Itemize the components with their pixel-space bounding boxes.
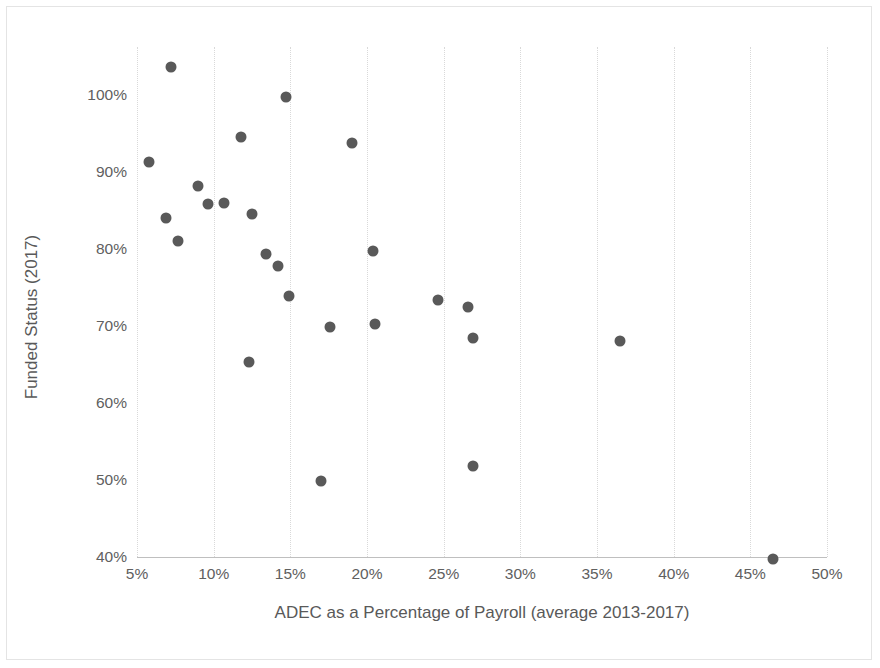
data-point	[368, 245, 379, 256]
x-tick-label: 40%	[644, 565, 704, 583]
data-point	[161, 213, 172, 224]
scatter-chart-frame: 5%10%15%20%25%30%35%40%45%50% 40%50%60%7…	[6, 6, 872, 660]
data-point	[193, 180, 204, 191]
x-tick-label: 20%	[337, 565, 397, 583]
gridline-vertical	[367, 47, 369, 557]
data-point	[369, 319, 380, 330]
data-point	[260, 249, 271, 260]
gridline-vertical	[290, 47, 292, 557]
gridline-vertical	[137, 47, 139, 557]
x-tick-label: 25%	[414, 565, 474, 583]
data-point	[768, 553, 779, 564]
data-point	[247, 208, 258, 219]
y-tick-label: 50%	[67, 471, 127, 489]
y-tick-label: 90%	[67, 163, 127, 181]
x-tick-label: 5%	[107, 565, 167, 583]
x-tick-label: 50%	[797, 565, 857, 583]
y-tick-label: 60%	[67, 394, 127, 412]
data-point	[467, 332, 478, 343]
data-point	[165, 62, 176, 73]
gridline-vertical	[750, 47, 752, 557]
x-axis-line	[137, 557, 827, 558]
data-point	[202, 198, 213, 209]
x-tick-label: 30%	[490, 565, 550, 583]
data-point	[273, 260, 284, 271]
y-axis-title: Funded Status (2017)	[22, 187, 42, 447]
x-tick-label: 35%	[567, 565, 627, 583]
data-point	[463, 301, 474, 312]
plot-area	[137, 47, 827, 557]
data-point	[280, 91, 291, 102]
gridline-vertical	[444, 47, 446, 557]
x-axis-title: ADEC as a Percentage of Payroll (average…	[137, 603, 827, 623]
y-tick-label: 40%	[67, 548, 127, 566]
x-tick-label: 45%	[720, 565, 780, 583]
gridline-vertical	[827, 47, 829, 557]
gridline-vertical	[520, 47, 522, 557]
data-point	[283, 290, 294, 301]
data-point	[316, 475, 327, 486]
gridline-vertical	[597, 47, 599, 557]
data-point	[144, 156, 155, 167]
data-point	[236, 132, 247, 143]
data-point	[173, 236, 184, 247]
data-point	[243, 357, 254, 368]
data-point	[325, 321, 336, 332]
gridline-vertical	[674, 47, 676, 557]
data-point	[219, 197, 230, 208]
y-tick-label: 100%	[67, 86, 127, 104]
gridline-vertical	[214, 47, 216, 557]
data-point	[467, 461, 478, 472]
y-tick-label: 80%	[67, 240, 127, 258]
data-point	[615, 335, 626, 346]
data-point	[432, 294, 443, 305]
x-tick-label: 10%	[184, 565, 244, 583]
y-tick-label: 70%	[67, 317, 127, 335]
x-tick-label: 15%	[260, 565, 320, 583]
data-point	[346, 137, 357, 148]
